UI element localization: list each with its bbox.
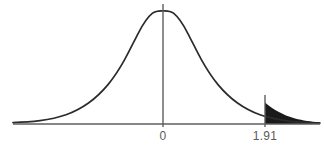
normal-distribution-figure: 0 1.91 — [0, 0, 324, 158]
x-tick-label-mean: 0 — [160, 130, 167, 142]
x-tick-label-critical-value: 1.91 — [253, 130, 278, 142]
normal-curve — [13, 11, 320, 123]
